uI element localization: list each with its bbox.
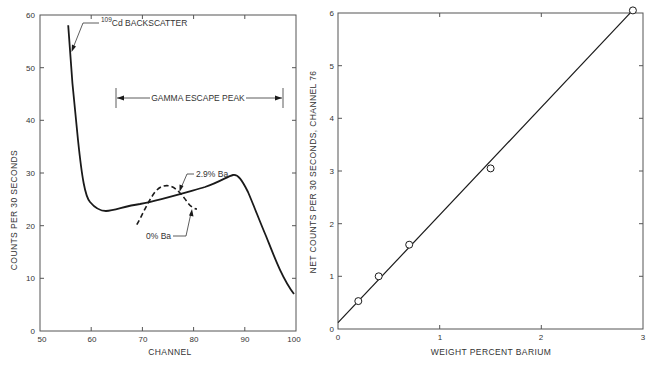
y-tick-label: 40 [26, 116, 35, 125]
y-tick-label: 20 [26, 222, 35, 231]
x-tick-label: 90 [241, 335, 250, 344]
y-tick-label: 2 [330, 220, 335, 229]
data-point [629, 7, 636, 14]
annotation-backscatter: 109Cd BACKSCATTER [72, 16, 188, 52]
annotation-backscatter-sup: 109 [101, 16, 112, 23]
left-x-tick-labels: 50 60 70 80 90 100 [38, 335, 302, 344]
annotation-0pct-ba: 0% Ba [146, 209, 194, 241]
y-tick-label: 50 [26, 64, 35, 73]
x-tick-label: 1 [438, 333, 443, 342]
y-tick-label: 1 [330, 272, 335, 281]
x-tick-label: 80 [190, 335, 199, 344]
y-tick-label: 60 [26, 11, 35, 20]
left-plot-frame [40, 15, 296, 331]
x-tick-label: 2 [539, 333, 544, 342]
left-y-axis-title: COUNTS PER 30 SECONDS [9, 150, 19, 270]
data-point [487, 165, 494, 172]
annotation-2-9pct-text: 2.9% Ba [196, 169, 228, 179]
annotation-0pct-text: 0% Ba [146, 231, 171, 241]
left-x-axis-title: CHANNEL [148, 347, 191, 357]
y-tick-label: 10 [26, 274, 35, 283]
data-point [355, 298, 362, 305]
x-tick-label: 50 [38, 335, 47, 344]
y-tick-label: 0 [31, 327, 36, 336]
right-y-axis-title: NET COUNTS PER 30 SECONDS, CHANNEL 76 [308, 71, 318, 274]
x-tick-label: 70 [139, 335, 148, 344]
svg-text:109Cd BACKSCATTER: 109Cd BACKSCATTER [101, 16, 187, 28]
y-tick-label: 6 [330, 9, 335, 18]
x-tick-label: 60 [88, 335, 97, 344]
y-tick-label: 30 [26, 169, 35, 178]
right-x-tick-labels: 0 1 2 3 [336, 333, 646, 342]
figure: 0 10 20 30 40 50 60 50 60 70 80 90 100 C… [0, 0, 653, 366]
y-tick-label: 4 [330, 114, 335, 123]
left-y-tick-labels: 0 10 20 30 40 50 60 [26, 11, 35, 336]
left-chart: 0 10 20 30 40 50 60 50 60 70 80 90 100 C… [9, 11, 301, 357]
y-tick-label: 0 [330, 325, 335, 334]
x-tick-label: 100 [287, 335, 301, 344]
annotation-backscatter-text: Cd BACKSCATTER [112, 18, 187, 28]
right-x-axis-title: WEIGHT PERCENT BARIUM [431, 347, 552, 357]
series-0pct-ba-curve [68, 25, 294, 294]
x-tick-label: 3 [641, 333, 646, 342]
annotation-gamma-escape-peak: GAMMA ESCAPE PEAK [116, 88, 283, 108]
data-point [375, 273, 382, 280]
x-tick-label: 0 [336, 333, 341, 342]
y-tick-label: 3 [330, 167, 335, 176]
annotation-gamma-text: GAMMA ESCAPE PEAK [151, 93, 245, 103]
y-tick-label: 5 [330, 62, 335, 71]
right-y-tick-labels: 0 1 2 3 4 5 6 [330, 9, 335, 334]
right-chart: 0 1 2 3 4 5 6 0 1 2 3 WEIGHT PERCENT BAR… [308, 7, 646, 357]
data-point [406, 241, 413, 248]
